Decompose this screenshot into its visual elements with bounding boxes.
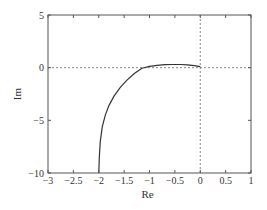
root-locus-chart: −3−2.5−2−1.5−1−0.500.51 50−5−10 Re Im xyxy=(0,0,267,210)
y-tick-label: 0 xyxy=(39,62,44,73)
y-tick-label: 5 xyxy=(39,10,44,21)
x-tick-label: −2.5 xyxy=(64,175,82,186)
y-tick-label: −10 xyxy=(28,168,44,179)
x-tick-label: −0.5 xyxy=(166,175,184,186)
y-tick-label: −5 xyxy=(33,115,44,126)
x-axis-label: Re xyxy=(141,188,153,200)
y-ticks: 50−5−10 xyxy=(28,10,251,179)
x-ticks: −3−2.5−2−1.5−1−0.500.51 xyxy=(43,15,254,186)
y-axis-label: Im xyxy=(11,87,23,100)
x-tick-label: 0.5 xyxy=(219,175,232,186)
x-tick-label: 1 xyxy=(249,175,254,186)
x-tick-label: −1 xyxy=(144,175,155,186)
x-tick-label: −1.5 xyxy=(115,175,133,186)
series-line xyxy=(99,65,201,174)
axes-frame xyxy=(48,15,251,173)
x-tick-label: 0 xyxy=(198,175,203,186)
x-tick-label: −2 xyxy=(93,175,104,186)
x-tick-label: −3 xyxy=(43,175,54,186)
reference-lines xyxy=(48,15,251,173)
